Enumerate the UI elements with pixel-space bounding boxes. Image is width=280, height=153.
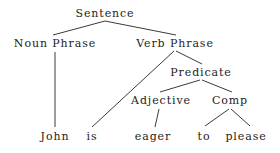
tree-edge-comp-to bbox=[205, 109, 229, 126]
tree-leaf-please: please bbox=[225, 131, 266, 143]
tree-edge-predicate-comp bbox=[202, 80, 232, 92]
tree-node-comp: Comp bbox=[212, 95, 248, 107]
tree-leaf-eager: eager bbox=[135, 131, 171, 143]
tree-edge-verb-phrase-predicate bbox=[176, 51, 202, 64]
tree-node-adjective: Adjective bbox=[131, 95, 191, 107]
tree-node-noun-phrase: Noun Phrase bbox=[14, 38, 96, 50]
tree-leaf-john: John bbox=[41, 131, 70, 143]
tree-edge-sentence-verb-phrase bbox=[105, 21, 176, 35]
tree-edge-sentence-noun-phrase bbox=[53, 21, 105, 35]
tree-node-predicate: Predicate bbox=[170, 67, 231, 79]
tree-edge-predicate-adjective bbox=[160, 80, 200, 92]
syntax-tree-diagram: Sentence Noun Phrase Verb Phrase Predica… bbox=[0, 0, 280, 153]
tree-node-verb-phrase: Verb Phrase bbox=[136, 38, 214, 50]
tree-edge-adjective-eager bbox=[155, 109, 159, 127]
tree-leaf-is: is bbox=[87, 131, 98, 143]
tree-node-sentence: Sentence bbox=[75, 8, 134, 20]
tree-leaf-to: to bbox=[198, 131, 211, 143]
tree-edge-comp-please bbox=[231, 109, 250, 126]
tree-edge-verb-phrase-is bbox=[92, 51, 174, 127]
